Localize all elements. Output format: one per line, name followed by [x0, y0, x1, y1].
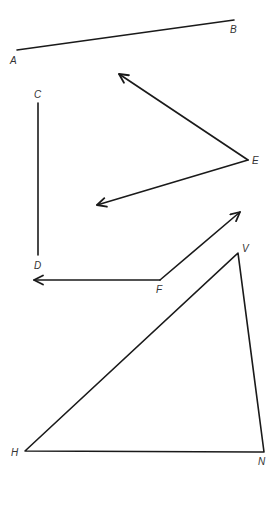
triangle-hvn	[25, 253, 264, 452]
label-c: C	[34, 89, 42, 100]
ray-e-lower-arrow	[97, 160, 248, 205]
ray-f-upright-arrow	[160, 212, 240, 280]
label-e: E	[252, 155, 259, 166]
segment-ab	[17, 20, 234, 50]
label-a: A	[9, 55, 17, 66]
label-b: B	[230, 24, 237, 35]
label-n: N	[258, 456, 266, 467]
label-d: D	[34, 260, 41, 271]
label-h: H	[11, 447, 19, 458]
label-v: V	[242, 243, 250, 254]
ray-e-upper-arrow	[119, 74, 248, 160]
geometry-figure: A B C D E F V H N	[0, 0, 278, 518]
label-f: F	[156, 284, 163, 295]
